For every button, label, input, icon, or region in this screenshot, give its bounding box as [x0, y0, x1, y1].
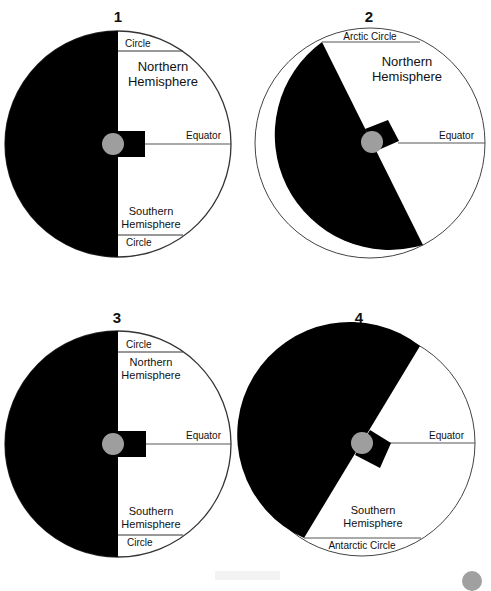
diagram-number: 1 — [114, 8, 122, 25]
diagram-number: 3 — [113, 309, 121, 326]
sun-marker — [102, 133, 124, 155]
label-south-2: Hemisphere — [121, 518, 180, 530]
label-north-2: Hemisphere — [121, 369, 180, 381]
sun-marker — [351, 432, 373, 454]
diagram-4: 4 Equator Southern Hemisphere Antarctic … — [237, 309, 475, 556]
label-equator: Equator — [186, 430, 222, 441]
label-bottom-circle: Circle — [127, 537, 153, 548]
label-top-circle: Circle — [125, 38, 151, 49]
label-top-circle: Circle — [126, 339, 152, 350]
sun-marker — [361, 131, 383, 153]
label-north-1: Northern — [382, 54, 433, 69]
diagram-1: 1 Circle Northern Hemisphere Equator Sou… — [5, 8, 231, 257]
diagram-3: 3 Circle Northern Hemisphere Equator Sou… — [5, 309, 231, 557]
label-north-2: Hemisphere — [372, 69, 442, 84]
label-north-1: Northern — [138, 59, 189, 74]
label-north-1: Northern — [130, 356, 173, 368]
label-antarctic-circle: Antarctic Circle — [328, 540, 396, 551]
night-side — [5, 331, 118, 557]
label-bottom-circle: Circle — [126, 237, 152, 248]
label-equator: Equator — [429, 430, 465, 441]
label-equator: Equator — [186, 130, 222, 141]
sun-marker — [102, 433, 124, 455]
diagram-2: 2 Arctic Circle Northern Hemisphere Equa… — [255, 8, 485, 258]
label-south-2: Hemisphere — [121, 218, 180, 230]
label-south-1: Southern — [129, 505, 174, 517]
diagram-number: 2 — [365, 8, 373, 25]
label-south-1: Southern — [129, 205, 174, 217]
label-north-2: Hemisphere — [128, 74, 198, 89]
faint-artifact — [215, 571, 280, 580]
label-south-2: Hemisphere — [343, 517, 402, 529]
night-side — [5, 31, 118, 257]
corner-dot-icon — [462, 571, 482, 591]
label-south-1: Southern — [351, 504, 396, 516]
label-equator: Equator — [439, 130, 475, 141]
label-arctic-circle: Arctic Circle — [343, 31, 397, 42]
